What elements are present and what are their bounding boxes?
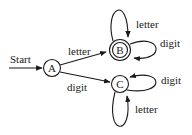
edge-b-loop-right-label: digit	[160, 37, 180, 49]
start-label: Start	[10, 53, 31, 65]
state-b: B	[110, 40, 131, 61]
edge-b-loop-top	[111, 10, 128, 41]
edge-c-loop-bottom	[113, 92, 129, 126]
state-c: C	[112, 76, 129, 93]
edge-a-to-b-label: letter	[68, 45, 91, 57]
state-b-label: B	[116, 44, 123, 56]
state-a: A	[44, 60, 61, 77]
edge-b-loop-top-label: letter	[136, 18, 159, 30]
state-a-label: A	[48, 62, 56, 74]
edge-c-loop-bottom-label: letter	[135, 103, 158, 115]
edge-c-loop-right-label: digit	[161, 74, 181, 86]
edge-b-loop-right	[130, 41, 156, 58]
state-c-label: C	[116, 78, 123, 90]
edge-c-loop-right	[127, 75, 156, 91]
edge-a-to-c-label: digit	[67, 81, 87, 93]
state-diagram: Start letter digit letter digit digit le…	[0, 0, 192, 135]
